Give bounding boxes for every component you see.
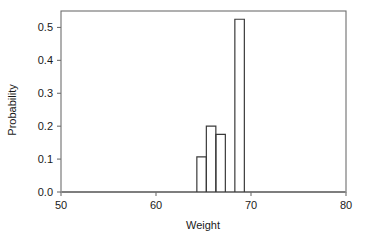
x-tick-label: 60 <box>150 199 162 211</box>
y-tick-label: 0.0 <box>38 186 53 198</box>
histogram-bars <box>197 19 245 192</box>
x-tick-label: 80 <box>340 199 352 211</box>
x-axis-title: Weight <box>186 219 220 231</box>
histogram-figure: 0.00.10.20.30.40.5 50607080 Weight Proba… <box>0 0 367 240</box>
y-axis-tick-labels: 0.00.10.20.30.40.5 <box>38 21 53 198</box>
histogram-bar <box>197 157 207 192</box>
histogram-bar <box>206 126 216 192</box>
x-tick-label: 70 <box>245 199 257 211</box>
x-axis-tick-labels: 50607080 <box>55 199 352 211</box>
chart-canvas: 0.00.10.20.30.40.5 50607080 Weight Proba… <box>0 0 367 240</box>
histogram-bar <box>216 134 226 192</box>
y-tick-label: 0.2 <box>38 120 53 132</box>
y-axis-ticks <box>57 27 61 192</box>
x-tick-label: 50 <box>55 199 67 211</box>
y-tick-label: 0.1 <box>38 153 53 165</box>
plot-frame <box>61 11 346 192</box>
histogram-bar <box>235 19 245 192</box>
y-tick-label: 0.5 <box>38 21 53 33</box>
y-tick-label: 0.3 <box>38 87 53 99</box>
y-axis-title: Probability <box>6 84 18 136</box>
y-tick-label: 0.4 <box>38 54 53 66</box>
